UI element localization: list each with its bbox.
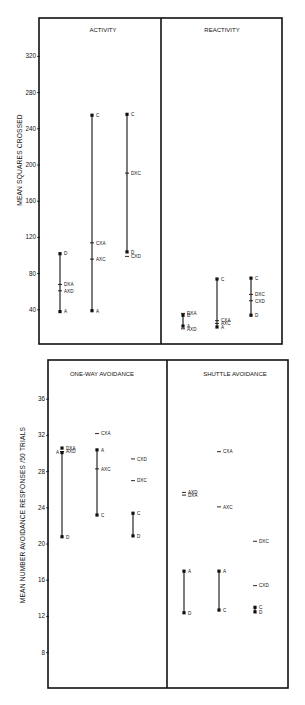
data-point-label: CXD <box>137 457 147 462</box>
range-column: AXDDXAAD <box>182 490 198 615</box>
data-point-dot <box>90 309 93 312</box>
panel-title: REACTIVITY <box>204 27 239 33</box>
data-point-dot <box>181 314 184 317</box>
data-point-label: AXD <box>64 289 74 294</box>
data-point-dot <box>125 250 128 253</box>
data-point-label: AXC <box>223 505 233 510</box>
plot-frame <box>48 360 288 688</box>
data-point-dot <box>58 252 61 255</box>
data-point-label: DXA <box>188 493 198 498</box>
data-point-dot <box>217 570 220 573</box>
data-point-dot <box>60 451 63 454</box>
y-tick-label: 120 <box>25 233 36 240</box>
y-tick-label: 16 <box>38 576 46 583</box>
avoidance-figure: 812162024283236MEAN NUMBER AVOIDANCE RES… <box>0 355 305 705</box>
data-point-dot <box>60 446 63 449</box>
data-point-label: D <box>137 534 141 539</box>
activity-reactivity-figure: 4080120160200240280320MEAN SQUARES CROSS… <box>0 0 305 350</box>
data-point-label: AXC <box>96 257 106 262</box>
y-tick-label: 240 <box>25 125 36 132</box>
range-column: DXADAAXD <box>181 311 197 331</box>
data-point-label: C <box>223 608 227 613</box>
data-point-label: D <box>64 251 68 256</box>
y-axis-title: MEAN SQUARES CROSSED <box>16 114 24 206</box>
data-point-dot <box>131 534 134 537</box>
y-tick-label: 320 <box>25 52 36 59</box>
y-tick-label: 8 <box>41 649 45 656</box>
y-tick-label: 280 <box>25 89 36 96</box>
range-column: CXAAAXCC <box>95 431 111 517</box>
data-point-label: CXD <box>255 299 265 304</box>
data-point-label: A <box>101 448 105 453</box>
y-tick-label: 36 <box>38 395 46 402</box>
range-column: CCXAAXCA <box>215 277 231 330</box>
data-point-label: C <box>131 112 135 117</box>
y-tick-label: 20 <box>38 540 46 547</box>
data-point-label: D <box>66 535 70 540</box>
data-point-label: CXD <box>131 254 141 259</box>
data-point-label: D <box>255 313 259 318</box>
data-point-dot <box>215 325 218 328</box>
data-point-label: CXD <box>259 583 269 588</box>
data-point-dot <box>182 570 185 573</box>
avoidance-chart: 812162024283236MEAN NUMBER AVOIDANCE RES… <box>0 355 305 705</box>
data-point-label: C <box>96 113 100 118</box>
range-column: DDXAAXDA <box>58 251 74 314</box>
data-point-label: D <box>188 611 192 616</box>
data-point-label: DXC <box>259 539 269 544</box>
data-point-label: DXA <box>64 282 74 287</box>
y-tick-label: 40 <box>29 306 37 313</box>
data-point-label: AXD <box>187 327 197 332</box>
range-column: CDXCCXDD <box>249 276 265 318</box>
data-point-dot <box>131 512 134 515</box>
data-point-label: A <box>56 450 60 455</box>
data-point-label: AXC <box>101 467 111 472</box>
data-point-label: C <box>255 276 259 281</box>
data-point-label: C <box>101 513 105 518</box>
data-point-dot <box>181 324 184 327</box>
data-point-dot <box>249 277 252 280</box>
data-point-label: CXA <box>101 431 111 436</box>
data-point-label: DXC <box>131 171 141 176</box>
panel-title: ACTIVITY <box>89 27 116 33</box>
y-tick-label: 32 <box>38 431 46 438</box>
data-point-dot <box>253 610 256 613</box>
data-point-dot <box>182 611 185 614</box>
data-point-label: D <box>259 610 263 615</box>
data-point-label: A <box>223 569 227 574</box>
y-tick-label: 28 <box>38 468 46 475</box>
data-point-label: A <box>64 309 68 314</box>
data-point-dot <box>60 535 63 538</box>
data-point-dot <box>58 310 61 313</box>
data-point-label: AXD <box>66 449 76 454</box>
data-point-dot <box>95 448 98 451</box>
data-point-dot <box>217 608 220 611</box>
range-column: CXDDXCCD <box>131 457 147 539</box>
data-point-label: DXC <box>137 478 147 483</box>
data-point-label: DXC <box>255 292 265 297</box>
data-point-label: A <box>96 309 100 314</box>
data-point-dot <box>215 277 218 280</box>
activity-reactivity-chart: 4080120160200240280320MEAN SQUARES CROSS… <box>0 0 305 350</box>
y-tick-label: 12 <box>38 612 46 619</box>
panel-title: SHUTTLE AVOIDANCE <box>203 371 267 377</box>
data-point-label: CXA <box>223 449 233 454</box>
y-tick-label: 80 <box>29 270 37 277</box>
data-point-label: CXA <box>96 241 106 246</box>
y-axis-title: MEAN NUMBER AVOIDANCE RESPONSES /50 TRIA… <box>19 426 26 603</box>
range-column: CCXAAXCA <box>90 113 106 313</box>
data-point-label: A <box>188 569 192 574</box>
data-point-dot <box>95 513 98 516</box>
data-point-dot <box>249 314 252 317</box>
data-point-label: C <box>221 277 225 282</box>
data-point-label: C <box>137 511 141 516</box>
data-point-dot <box>90 114 93 117</box>
panel-title: ONE-WAY AVOIDANCE <box>70 371 134 377</box>
range-column: CDXCDCXD <box>125 112 141 259</box>
y-tick-label: 160 <box>25 197 36 204</box>
range-column: DXAAXDAD <box>56 446 76 540</box>
range-column: CXAAXCAC <box>217 449 233 612</box>
y-tick-label: 200 <box>25 161 36 168</box>
data-point-dot <box>253 606 256 609</box>
range-column: DXCCXDCD <box>253 539 269 615</box>
